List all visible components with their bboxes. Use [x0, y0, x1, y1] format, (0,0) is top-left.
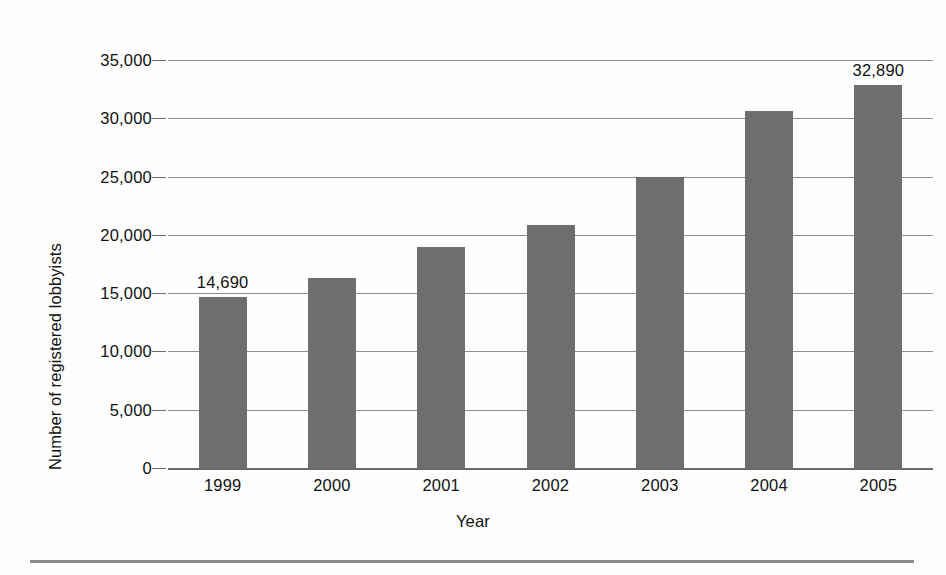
bar	[308, 278, 356, 469]
y-axis-tick-mark	[152, 293, 166, 294]
bar-value-label: 32,890	[818, 61, 938, 80]
bar	[417, 247, 465, 468]
bar	[745, 111, 793, 468]
y-axis-tick-label: 5,000	[0, 401, 152, 418]
x-axis-tick-label: 2000	[287, 476, 377, 495]
bar-chart-figure: Number of registered lobbyists 05,00010,…	[0, 0, 946, 575]
y-axis-tick-label: 25,000	[0, 168, 152, 185]
y-axis-tick-mark	[152, 351, 166, 352]
gridline	[168, 118, 933, 119]
x-axis-tick-label: 2004	[724, 476, 814, 495]
x-axis-tick-label: 2002	[506, 476, 596, 495]
y-axis-tick-label: 35,000	[0, 52, 152, 69]
bar	[199, 297, 247, 468]
y-axis-tick-label: 30,000	[0, 110, 152, 127]
y-axis-tick-label: 10,000	[0, 343, 152, 360]
y-axis-tick-labels: 05,00010,00015,00020,00025,00030,00035,0…	[0, 60, 152, 468]
x-axis-tick-label: 2003	[615, 476, 705, 495]
x-axis-tick-labels: 1999200020012002200320042005	[168, 476, 933, 502]
x-axis-tick-label: 2005	[833, 476, 923, 495]
bar	[636, 177, 684, 468]
y-axis-tick-label: 20,000	[0, 227, 152, 244]
bar	[854, 85, 902, 468]
x-axis-tick-label: 1999	[178, 476, 268, 495]
y-axis-tick-mark	[152, 410, 166, 411]
bar-value-label: 14,690	[163, 273, 283, 292]
y-axis-tick-mark	[152, 118, 166, 119]
y-axis-tick-mark	[152, 177, 166, 178]
plot-area: 14,69032,890	[168, 60, 933, 468]
gridline	[168, 177, 933, 178]
bottom-rule	[30, 560, 914, 563]
x-axis-line	[168, 468, 933, 470]
y-axis-tick-label: 0	[0, 460, 152, 477]
x-axis-title: Year	[0, 512, 946, 531]
bar	[527, 225, 575, 468]
x-axis-tick-label: 2001	[396, 476, 486, 495]
y-axis-tick-mark	[152, 60, 166, 61]
y-axis-tick-label: 15,000	[0, 285, 152, 302]
y-axis-tick-mark	[152, 235, 166, 236]
y-axis-tick-mark	[152, 468, 166, 469]
